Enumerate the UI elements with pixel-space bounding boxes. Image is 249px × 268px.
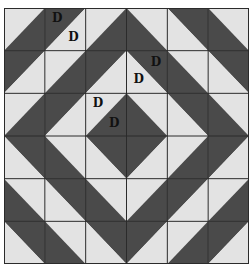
cell-label-d: D	[52, 11, 62, 25]
cell-label-d: D	[134, 72, 144, 86]
cell-label-d: D	[151, 55, 161, 69]
triangle-tile-pattern: DDDDDD	[4, 8, 249, 264]
cell-label-d: D	[68, 30, 78, 44]
quilt-triangle-grid: DDDDDD	[4, 8, 249, 264]
cell-label-d: D	[93, 96, 103, 110]
cell-label-d: D	[109, 116, 119, 130]
